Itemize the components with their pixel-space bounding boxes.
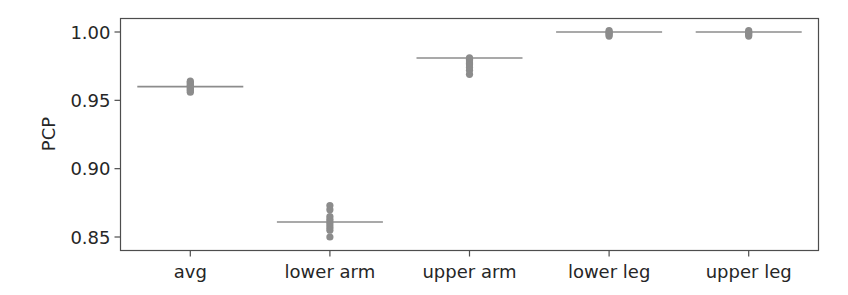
y-tick-label: 1.00: [70, 22, 110, 43]
x-tick-label: lower leg: [568, 261, 650, 282]
data-point: [326, 227, 333, 234]
x-tick-label: lower arm: [285, 261, 376, 282]
data-point: [745, 33, 752, 40]
y-tick-label: 0.90: [70, 158, 110, 179]
data-point: [606, 33, 613, 40]
y-tick-label: 0.95: [70, 90, 110, 111]
y-axis: 0.850.900.951.00: [70, 22, 120, 248]
data-point: [187, 89, 194, 96]
x-tick-label: avg: [174, 261, 207, 282]
x-axis: avglower armupper armlower legupper leg: [174, 251, 792, 282]
data-point: [326, 206, 333, 213]
x-tick-label: upper leg: [706, 261, 792, 282]
strip-chart: 0.850.900.951.00 avglower armupper armlo…: [0, 0, 848, 295]
data-point: [466, 71, 473, 78]
x-tick-label: upper arm: [422, 261, 516, 282]
plot-area: [137, 27, 801, 241]
axes-frame: [121, 19, 819, 251]
data-point: [326, 233, 333, 240]
y-tick-label: 0.85: [70, 227, 110, 248]
y-axis-label: PCP: [38, 117, 59, 151]
